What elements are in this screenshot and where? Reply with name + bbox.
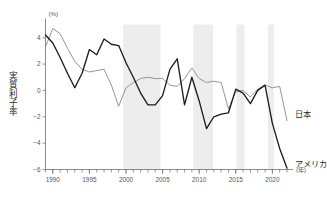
x-tick-label-5: 2015 bbox=[229, 176, 244, 183]
x-tick-label-0: 1990 bbox=[46, 176, 61, 183]
x-tick-label-3: 2005 bbox=[155, 176, 170, 183]
real-interest-rate-chart: 420−2−4−61990199520002005201020152020(%)… bbox=[0, 0, 327, 208]
x-tick-label-6: 2020 bbox=[265, 176, 280, 183]
y-tick-label-3: −2 bbox=[33, 113, 41, 120]
x-tick-label-1: 1995 bbox=[82, 176, 97, 183]
chart-canvas: 420−2−4−61990199520002005201020152020(%)… bbox=[0, 0, 327, 208]
recession-band-1 bbox=[193, 25, 213, 170]
x-tick-label-2: 2000 bbox=[119, 176, 134, 183]
y-tick-label-5: −6 bbox=[33, 166, 41, 173]
series-label-usa: アメリカ bbox=[295, 159, 327, 169]
y-tick-label-2: 0 bbox=[37, 87, 41, 94]
y-tick-label-4: −4 bbox=[33, 139, 41, 146]
y-tick-label-1: 2 bbox=[37, 60, 41, 67]
series-line-usa bbox=[46, 35, 288, 168]
chart-ticks bbox=[43, 38, 288, 174]
chart-labels: 420−2−4−61990199520002005201020152020(%)… bbox=[9, 10, 327, 183]
x-tick-label-4: 2010 bbox=[192, 176, 207, 183]
recession-band-2 bbox=[237, 25, 245, 170]
series-label-japan: 日本 bbox=[295, 109, 311, 119]
chart-series bbox=[46, 28, 288, 168]
recession-band-3 bbox=[268, 25, 274, 170]
y-axis-unit-label: (%) bbox=[49, 10, 59, 17]
recession-band-0 bbox=[123, 25, 160, 170]
y-axis-title: 実質利子率 bbox=[9, 70, 18, 117]
y-tick-label-0: 4 bbox=[37, 34, 41, 41]
